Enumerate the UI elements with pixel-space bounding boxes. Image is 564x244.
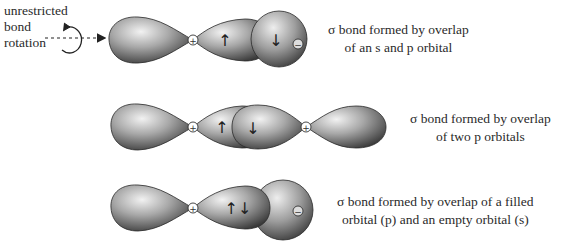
- nucleus-sign: +: [189, 204, 197, 214]
- row-filled-empty-overlap: + − ↑↓: [111, 180, 313, 240]
- nucleus-sign: −: [294, 40, 302, 50]
- electron-spin-up-icon: ↑: [218, 31, 231, 50]
- caption-line: of an s and p orbital: [328, 39, 469, 57]
- nucleus-sign: −: [294, 207, 302, 217]
- p-orbital-lobe-right: [306, 106, 386, 148]
- nucleus-sign: +: [189, 123, 197, 133]
- rotation-label-line: unrestricted: [4, 3, 68, 19]
- electron-pair-icon: ↑↓: [225, 199, 252, 218]
- caption-line: σ bond formed by overlap of a filled: [337, 193, 534, 211]
- p-orbital-lobe-left: [109, 17, 193, 63]
- p-orbital-lobe-overlap-right: [232, 105, 306, 149]
- caption-line: of two p orbitals: [410, 128, 551, 146]
- row-p-p-overlap: + + ↑ ↓: [111, 104, 386, 150]
- caption-line: orbital (p) and an empty orbital (s): [337, 211, 534, 229]
- caption-line: σ bond formed by overlap: [410, 110, 551, 128]
- p-orbital-lobe-left: [111, 185, 193, 231]
- nucleus-sign: +: [189, 36, 197, 46]
- electron-spin-down-icon: ↓: [269, 31, 282, 50]
- caption-s-p-overlap: σ bond formed by overlap of an s and p o…: [328, 21, 469, 57]
- nucleus-sign: +: [302, 123, 310, 133]
- caption-filled-empty-overlap: σ bond formed by overlap of a filled orb…: [337, 193, 534, 229]
- row-s-p-overlap: + − ↑ ↓: [109, 11, 307, 67]
- electron-spin-down-icon: ↓: [246, 119, 259, 138]
- electron-spin-up-icon: ↑: [215, 118, 228, 137]
- caption-line: σ bond formed by overlap: [328, 21, 469, 39]
- rotation-label: unrestricted bond rotation: [4, 3, 68, 51]
- rotation-label-line: rotation: [4, 35, 68, 51]
- caption-p-p-overlap: σ bond formed by overlap of two p orbita…: [410, 110, 551, 146]
- p-orbital-lobe-left: [111, 104, 193, 150]
- rotation-label-line: bond: [4, 19, 68, 35]
